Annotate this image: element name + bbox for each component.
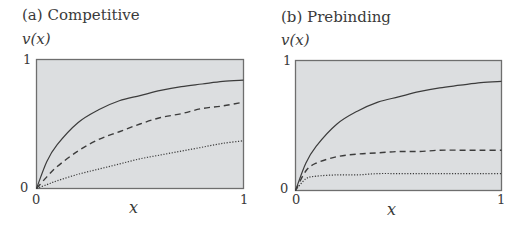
panel-b-plot-area xyxy=(296,61,502,191)
chart-canvas xyxy=(0,0,521,225)
